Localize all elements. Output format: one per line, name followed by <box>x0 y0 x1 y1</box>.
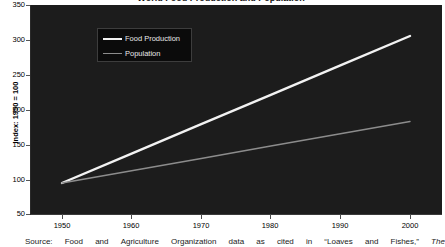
caption-word: and <box>95 236 108 247</box>
x-tick-mark <box>131 214 132 219</box>
x-tick-mark <box>340 214 341 219</box>
y-tick-label: 200 <box>1 106 25 114</box>
legend-entry-food-production: Food Production <box>98 31 193 46</box>
caption-publication-name: The <box>431 236 445 247</box>
y-tick-label: 150 <box>1 141 25 149</box>
legend-entry-population: Population <box>98 46 193 61</box>
legend-swatch-icon <box>103 53 122 54</box>
x-tick-label: 1960 <box>111 221 151 230</box>
x-tick-label: 1950 <box>42 221 82 230</box>
caption-word: as <box>256 236 264 247</box>
caption-word: Fishes,” <box>391 236 419 247</box>
x-tick-mark <box>201 214 202 219</box>
series-line-population <box>62 122 410 184</box>
caption-word: data <box>229 236 245 247</box>
caption-word: Agriculture <box>121 236 159 247</box>
x-tick-label: 1980 <box>250 221 290 230</box>
caption-word: “Loaves <box>324 236 352 247</box>
chart-title-text: World Food Production and Population <box>137 0 304 3</box>
x-tick-mark <box>62 214 63 219</box>
x-axis-line <box>31 214 442 215</box>
y-tick-label: 100 <box>1 176 25 184</box>
x-tick-mark <box>410 214 411 219</box>
x-tick-label: 2000 <box>390 221 430 230</box>
chart-legend: Food Production Population <box>97 28 192 62</box>
x-tick-label: 1990 <box>320 221 360 230</box>
y-tick-label: 250 <box>1 71 25 79</box>
legend-swatch-icon <box>103 38 122 40</box>
caption-word: cited <box>277 236 294 247</box>
x-tick-mark <box>270 214 271 219</box>
source-caption: Source: Food and Agriculture Organizatio… <box>25 236 445 247</box>
caption-word: Food <box>65 236 83 247</box>
y-tick-label: 300 <box>1 36 25 44</box>
source-caption-line: Source: Food and Agriculture Organizatio… <box>25 236 445 247</box>
series-canvas <box>31 5 442 214</box>
chart-title-clipped: World Food Production and Population <box>0 0 442 4</box>
plot-area: Food Production Population <box>31 5 442 214</box>
x-tick-label: 1970 <box>181 221 221 230</box>
caption-word: Source: <box>25 236 53 247</box>
y-tick-label: 50 <box>1 210 25 218</box>
y-tick-label: 350 <box>1 1 25 9</box>
legend-label: Population <box>125 48 160 59</box>
legend-label: Food Production <box>125 33 180 44</box>
caption-word: Organization <box>171 236 216 247</box>
caption-word: in <box>306 236 312 247</box>
caption-word: and <box>365 236 378 247</box>
